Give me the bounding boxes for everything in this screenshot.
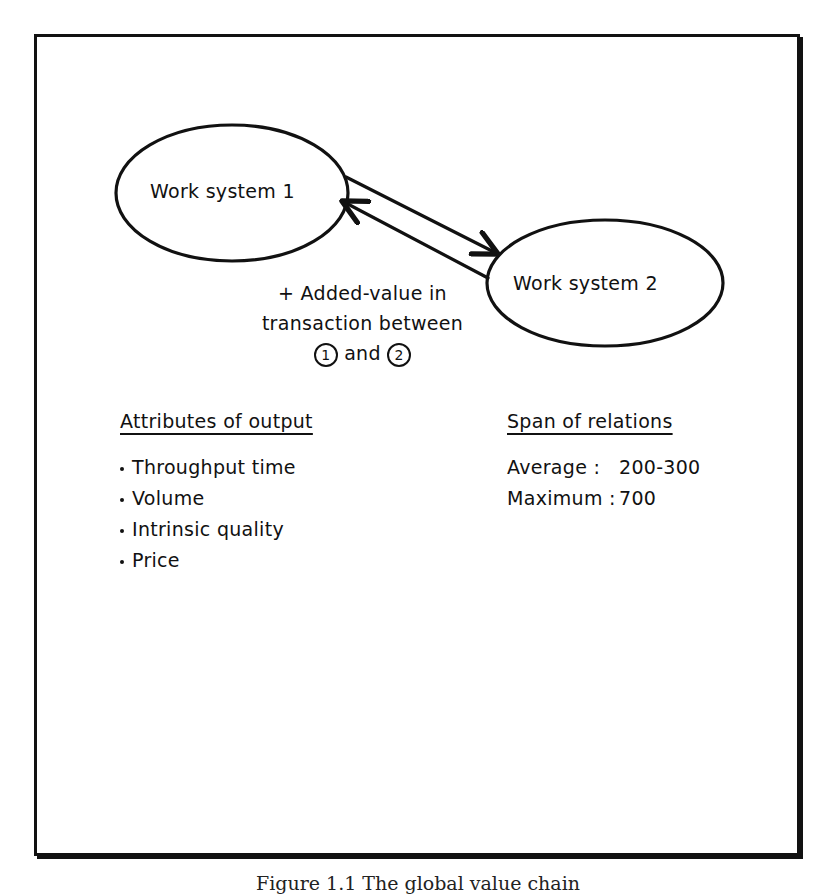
attribute-item: Price — [120, 545, 313, 576]
attribute-item: Throughput time — [120, 452, 313, 483]
span-section: Span of relations Average :200-300 Maxim… — [507, 410, 701, 514]
bullet-icon — [120, 498, 124, 502]
annotation-line-1: + Added-value in — [245, 278, 480, 308]
work-system-2-label: Work system 2 — [513, 272, 658, 294]
circled-number-2: 2 — [387, 343, 411, 367]
span-label: Maximum : — [507, 483, 619, 514]
span-value: 700 — [619, 487, 656, 509]
work-system-1-label: Work system 1 — [150, 180, 295, 202]
span-value: 200-300 — [619, 456, 701, 478]
attributes-heading: Attributes of output — [120, 410, 313, 432]
annotation-line-2: transaction between — [245, 308, 480, 338]
bullet-icon — [120, 467, 124, 471]
circled-number-1: 1 — [314, 343, 338, 367]
added-value-annotation: + Added-value in transaction between 1 a… — [245, 278, 480, 368]
span-rows: Average :200-300 Maximum :700 — [507, 452, 701, 514]
annotation-line-3: 1 and 2 — [245, 338, 480, 368]
bullet-icon — [120, 560, 124, 564]
span-row-average: Average :200-300 — [507, 452, 701, 483]
span-heading: Span of relations — [507, 410, 701, 432]
span-label: Average : — [507, 452, 619, 483]
attribute-item: Volume — [120, 483, 313, 514]
bullet-icon — [120, 529, 124, 533]
figure-caption: Figure 1.1 The global value chain — [0, 872, 836, 894]
attributes-list: Throughput time Volume Intrinsic quality… — [120, 452, 313, 576]
attributes-section: Attributes of output Throughput time Vol… — [120, 410, 313, 576]
span-row-maximum: Maximum :700 — [507, 483, 701, 514]
attribute-item: Intrinsic quality — [120, 514, 313, 545]
annotation-and: and — [344, 342, 381, 364]
